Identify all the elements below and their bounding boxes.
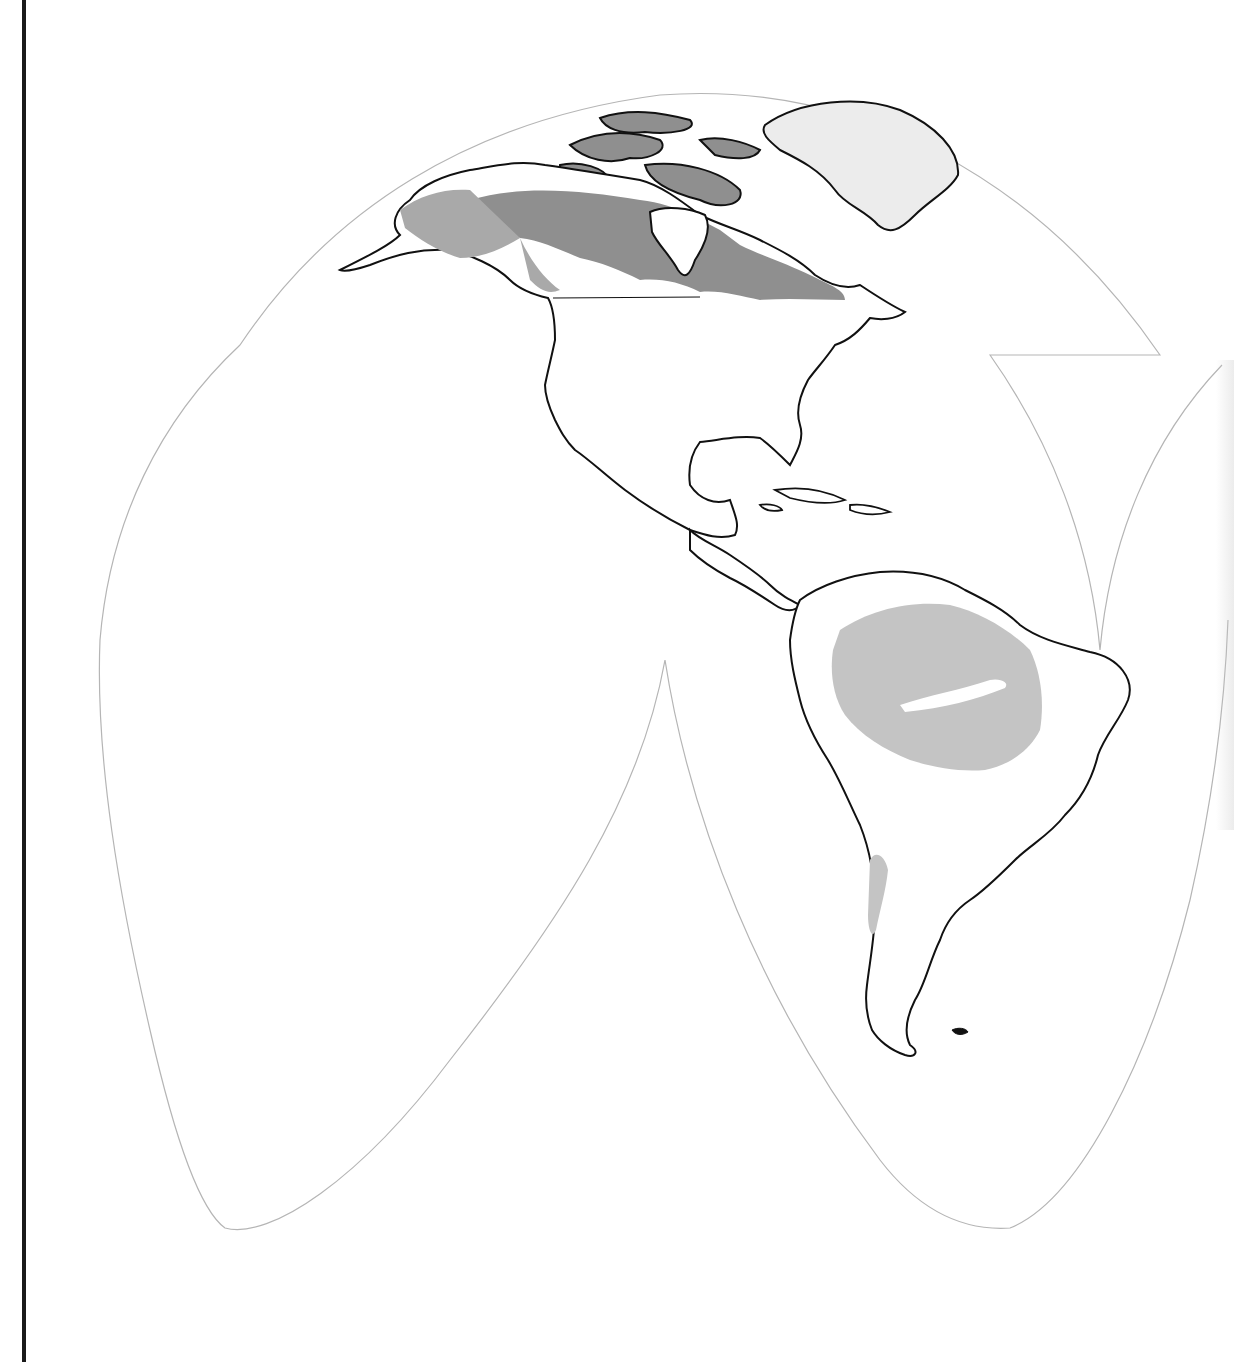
falkland-islands [952, 1028, 968, 1034]
page-fold-shadow [1216, 360, 1234, 830]
central-america-landmass [690, 530, 800, 610]
world-map-svg [0, 0, 1234, 1362]
map-canvas [0, 0, 1234, 1362]
greenland-landmass [763, 102, 958, 231]
caribbean-islands [760, 488, 890, 514]
